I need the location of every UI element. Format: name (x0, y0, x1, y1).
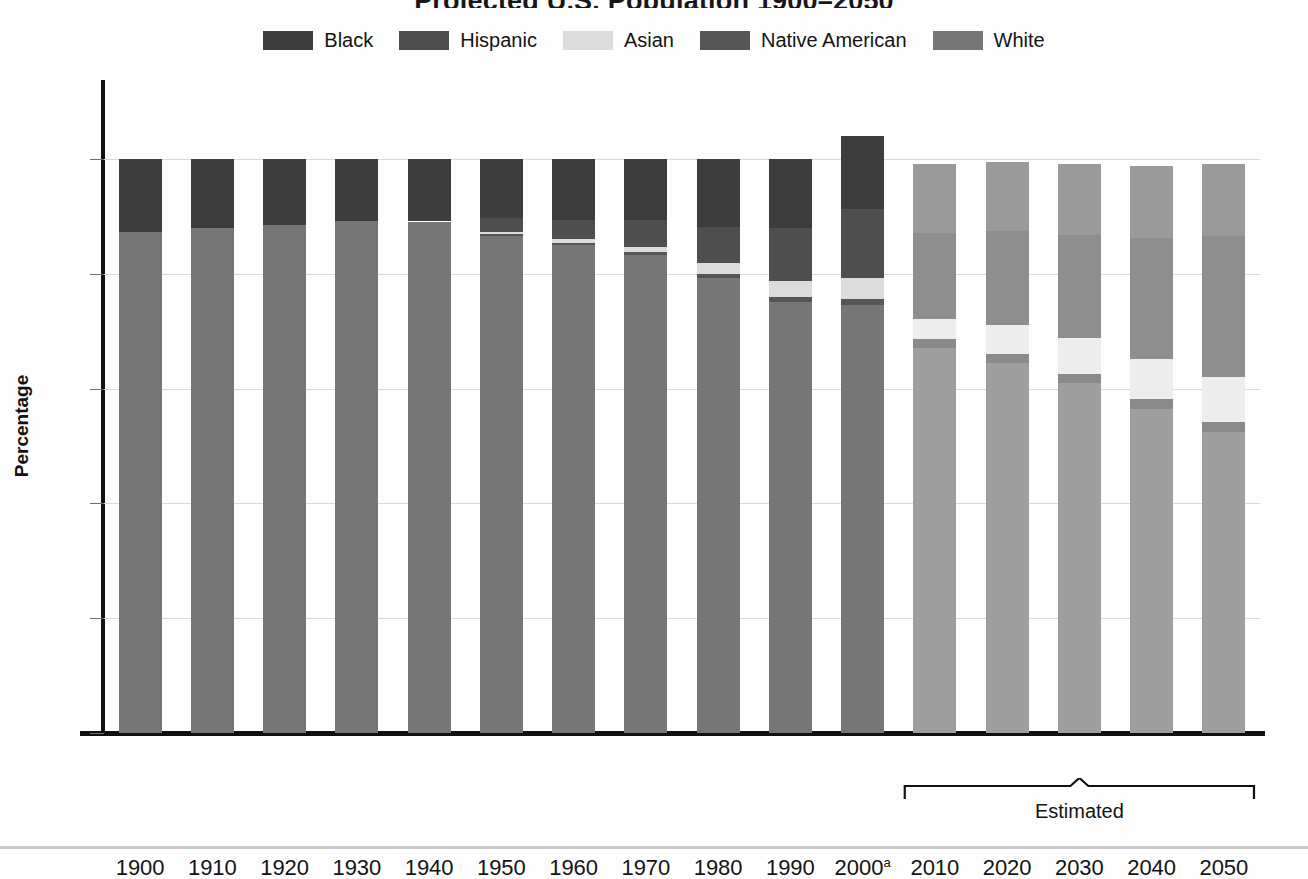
bar-segment-2050-native-american[interactable] (1202, 422, 1245, 431)
legend-item-asian[interactable]: Asian (563, 30, 674, 50)
legend-item-black[interactable]: Black (263, 30, 373, 50)
y-tick-20 (90, 618, 104, 619)
bar-1910[interactable] (191, 113, 234, 733)
legend-item-native_american[interactable]: Native American (700, 30, 907, 50)
legend-label-hispanic: Hispanic (460, 30, 537, 50)
bar-1950[interactable] (480, 113, 523, 733)
x-tick-label-2050: 2050 (1199, 855, 1248, 879)
gridline-0 (104, 733, 1260, 734)
bar-segment-2050-black[interactable] (1202, 164, 1245, 236)
bar-segment-1950-black[interactable] (480, 159, 523, 218)
bar-segment-2030-asian[interactable] (1058, 338, 1101, 374)
bar-2010[interactable] (913, 113, 956, 733)
bar-segment-2020-white[interactable] (986, 363, 1029, 733)
bar-segment-1960-native-american[interactable] (552, 243, 595, 245)
legend-swatch-asian (563, 31, 613, 50)
bar-segment-2000-native-american[interactable] (841, 299, 884, 305)
bar-segment-1980-white[interactable] (697, 278, 740, 733)
bar-segment-2000-hispanic[interactable] (841, 209, 884, 278)
bar-segment-1970-black[interactable] (624, 159, 667, 220)
bar-segment-1910-black[interactable] (191, 159, 234, 228)
x-tick-label-1990: 1990 (766, 855, 815, 879)
bar-2040[interactable] (1130, 113, 1173, 733)
bar-segment-1940-white[interactable] (408, 222, 451, 734)
bar-1990[interactable] (769, 113, 812, 733)
bar-2020[interactable] (986, 113, 1029, 733)
legend-item-white[interactable]: White (933, 30, 1045, 50)
bar-1980[interactable] (697, 113, 740, 733)
bar-1930[interactable] (335, 113, 378, 733)
bar-segment-1920-black[interactable] (263, 159, 306, 225)
bar-segment-1930-white[interactable] (335, 221, 378, 733)
bar-1960[interactable] (552, 113, 595, 733)
bar-segment-2040-black[interactable] (1130, 166, 1173, 238)
bar-segment-2030-native-american[interactable] (1058, 374, 1101, 383)
bar-segment-2010-asian[interactable] (913, 319, 956, 340)
bar-2030[interactable] (1058, 113, 1101, 733)
legend-swatch-black (263, 31, 313, 50)
bar-segment-1990-white[interactable] (769, 302, 812, 733)
bar-segment-2020-asian[interactable] (986, 325, 1029, 354)
y-tick-40 (90, 503, 104, 504)
bar-segment-2000-asian[interactable] (841, 278, 884, 299)
bar-segment-2040-white[interactable] (1130, 409, 1173, 733)
bar-segment-2050-hispanic[interactable] (1202, 236, 1245, 377)
bar-segment-1980-black[interactable] (697, 159, 740, 227)
x-tick-label-1950: 1950 (477, 855, 526, 879)
bar-segment-2000-black[interactable] (841, 136, 884, 209)
bar-segment-1960-white[interactable] (552, 245, 595, 733)
x-tick-label-2020: 2020 (983, 855, 1032, 879)
legend-label-black: Black (324, 30, 373, 50)
bar-segment-1970-hispanic[interactable] (624, 220, 667, 246)
bar-segment-1910-white[interactable] (191, 228, 234, 733)
bar-1940[interactable] (408, 113, 451, 733)
bar-segment-2030-hispanic[interactable] (1058, 235, 1101, 338)
bar-segment-2020-hispanic[interactable] (986, 231, 1029, 325)
legend-label-white: White (994, 30, 1045, 50)
bar-segment-1960-black[interactable] (552, 159, 595, 220)
bar-segment-2050-white[interactable] (1202, 432, 1245, 733)
bar-segment-2010-white[interactable] (913, 348, 956, 733)
bar-segment-2020-native-american[interactable] (986, 354, 1029, 363)
bar-segment-1990-black[interactable] (769, 159, 812, 228)
bar-segment-2000-white[interactable] (841, 305, 884, 733)
bar-segment-2010-hispanic[interactable] (913, 233, 956, 319)
legend-swatch-white (933, 31, 983, 50)
bar-segment-1970-white[interactable] (624, 255, 667, 733)
bar-segment-1930-black[interactable] (335, 159, 378, 221)
bar-segment-1980-asian[interactable] (697, 263, 740, 274)
bar-segment-1980-hispanic[interactable] (697, 227, 740, 263)
bar-segment-2040-asian[interactable] (1130, 359, 1173, 399)
bar-segment-1950-hispanic[interactable] (480, 218, 523, 232)
bar-1920[interactable] (263, 113, 306, 733)
bar-segment-1970-asian[interactable] (624, 247, 667, 252)
bar-segment-1950-white[interactable] (480, 236, 523, 733)
bar-1900[interactable] (119, 113, 162, 733)
bar-segment-1970-native-american[interactable] (624, 252, 667, 255)
bar-segment-1900-white[interactable] (119, 232, 162, 733)
bar-segment-1950-native-american[interactable] (480, 234, 523, 236)
bar-segment-1960-hispanic[interactable] (552, 220, 595, 240)
bar-segment-2040-hispanic[interactable] (1130, 238, 1173, 360)
bar-segment-2050-asian[interactable] (1202, 377, 1245, 422)
x-tick-label-2000: 2000a (835, 855, 891, 879)
bar-segment-2040-native-american[interactable] (1130, 399, 1173, 408)
bar-segment-1990-asian[interactable] (769, 281, 812, 298)
bar-segment-1960-asian[interactable] (552, 239, 595, 242)
bar-segment-2010-native-american[interactable] (913, 339, 956, 348)
bar-segment-2010-black[interactable] (913, 164, 956, 233)
bar-segment-2030-white[interactable] (1058, 383, 1101, 733)
bar-segment-1980-native-american[interactable] (697, 274, 740, 278)
bar-segment-1950-asian[interactable] (480, 232, 523, 234)
bar-1970[interactable] (624, 113, 667, 733)
bar-segment-1920-white[interactable] (263, 225, 306, 733)
bar-segment-2020-black[interactable] (986, 162, 1029, 231)
legend-item-hispanic[interactable]: Hispanic (399, 30, 537, 50)
bar-2050[interactable] (1202, 113, 1245, 733)
bar-2000[interactable] (841, 113, 884, 733)
bar-segment-1990-hispanic[interactable] (769, 228, 812, 280)
bar-segment-1900-black[interactable] (119, 159, 162, 232)
bar-segment-2030-black[interactable] (1058, 164, 1101, 235)
bar-segment-1990-native-american[interactable] (769, 297, 812, 302)
bar-segment-1940-black[interactable] (408, 159, 451, 222)
